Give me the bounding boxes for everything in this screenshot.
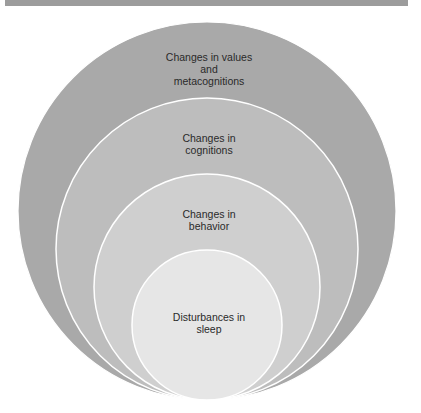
label-line: Changes in (129, 208, 289, 220)
label-line: cognitions (129, 144, 289, 156)
label-line: metacognitions (129, 75, 289, 87)
label-line: Changes in (129, 132, 289, 144)
label-behavior: Changes in behavior (129, 208, 289, 232)
label-line: sleep (129, 323, 289, 335)
label-sleep: Disturbances in sleep (129, 311, 289, 335)
label-line: Changes in values (129, 51, 289, 63)
label-line: Disturbances in (129, 311, 289, 323)
label-line: behavior (129, 220, 289, 232)
label-values-metacognitions: Changes in values and metacognitions (129, 51, 289, 87)
label-line: and (129, 63, 289, 75)
label-cognitions: Changes in cognitions (129, 132, 289, 156)
